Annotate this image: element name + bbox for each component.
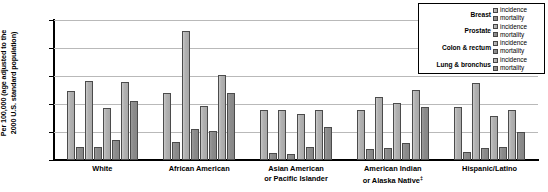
bar	[517, 132, 525, 160]
legend-entry-label: mortality	[500, 48, 524, 55]
bar	[454, 107, 462, 160]
legend-entry-incidence: incidence	[493, 23, 527, 30]
bar	[278, 110, 286, 160]
bar	[260, 110, 268, 160]
legend-entry-label: incidence	[500, 57, 527, 64]
bar	[366, 149, 374, 160]
bar	[172, 142, 180, 160]
bar	[412, 90, 420, 160]
legend-entry-mortality: mortality	[493, 15, 527, 22]
bar	[182, 31, 190, 160]
legend-category-label: Lung & bronchus	[419, 61, 493, 68]
legend-category-label: Prostate	[419, 27, 493, 34]
bar	[324, 127, 332, 160]
bar	[297, 114, 305, 160]
bar-group	[151, 20, 248, 160]
bar	[130, 101, 138, 160]
legend-row: Prostateincidencemortality	[419, 23, 546, 39]
legend-entry-mortality: mortality	[493, 65, 527, 72]
bar	[508, 110, 516, 160]
bar-group	[54, 20, 151, 160]
chart-legend: BreastincidencemortalityProstateincidenc…	[418, 3, 545, 74]
bar	[103, 108, 111, 160]
legend-swatch-mortality-icon	[493, 49, 498, 54]
bar	[384, 148, 392, 160]
legend-entry-label: incidence	[500, 40, 527, 47]
y-tick-0	[49, 160, 54, 161]
bar	[121, 82, 129, 160]
bar	[287, 154, 295, 160]
legend-row: Lung & bronchusincidencemortality	[419, 56, 546, 72]
legend-entry-pair: incidencemortality	[493, 57, 527, 72]
bar	[472, 83, 480, 160]
bar	[463, 152, 471, 160]
legend-swatch-mortality-icon	[493, 66, 498, 71]
x-axis-label-line1: Hispanic/Latino	[429, 164, 548, 174]
bar	[481, 148, 489, 160]
bar	[375, 97, 383, 160]
bar-group	[248, 20, 345, 160]
bar	[269, 153, 277, 160]
bar	[191, 129, 199, 160]
y-axis-title-line2: 2000 U.S. standard population)	[9, 8, 19, 158]
ethnic-cancer-rates-bar-chart: Per 100,000 (age adjusted to the 2000 U.…	[0, 0, 548, 192]
bar	[200, 106, 208, 160]
legend-entry-incidence: incidence	[493, 40, 527, 47]
legend-swatch-mortality-icon	[493, 32, 498, 37]
legend-entry-mortality: mortality	[493, 48, 527, 55]
legend-entry-pair: incidencemortality	[493, 40, 527, 55]
legend-entry-label: incidence	[500, 7, 527, 14]
bar	[315, 110, 323, 160]
bar	[306, 147, 314, 160]
bar	[499, 147, 507, 160]
bar	[421, 107, 429, 160]
legend-row: Breastincidencemortality	[419, 6, 546, 22]
bar	[67, 91, 75, 160]
y-axis-title: Per 100,000 (age adjusted to the 2000 U.…	[0, 8, 23, 158]
x-axis-label-line2: or Alaska Native‡	[332, 174, 453, 186]
legend-swatch-incidence-icon	[493, 8, 498, 13]
bar	[209, 131, 217, 160]
legend-category-label: Breast	[419, 11, 493, 18]
legend-entry-mortality: mortality	[493, 31, 527, 38]
bar	[112, 140, 120, 160]
legend-entry-incidence: incidence	[493, 7, 527, 14]
legend-entry-label: incidence	[500, 24, 527, 31]
legend-entry-label: mortality	[500, 15, 524, 22]
legend-entry-pair: incidencemortality	[493, 23, 527, 38]
bar	[218, 75, 226, 160]
bar	[163, 93, 171, 160]
bar	[357, 110, 365, 160]
y-axis-title-line1: Per 100,000 (age adjusted to the	[0, 8, 9, 158]
legend-swatch-incidence-icon	[493, 58, 498, 63]
bar	[393, 103, 401, 160]
legend-entry-label: mortality	[500, 32, 524, 39]
legend-entry-incidence: incidence	[493, 57, 527, 64]
legend-entry-label: mortality	[500, 65, 524, 72]
legend-entry-pair: incidencemortality	[493, 7, 527, 22]
legend-swatch-incidence-icon	[493, 24, 498, 29]
bar	[402, 143, 410, 160]
bar	[94, 147, 102, 160]
bar	[490, 116, 498, 160]
bar	[76, 147, 84, 160]
legend-swatch-incidence-icon	[493, 41, 498, 46]
legend-row: Colon & rectumincidencemortality	[419, 40, 546, 56]
bar	[227, 93, 235, 160]
legend-category-label: Colon & rectum	[419, 44, 493, 51]
bar	[85, 81, 93, 160]
legend-swatch-mortality-icon	[493, 16, 498, 21]
x-axis-label: Hispanic/Latino	[429, 164, 548, 174]
